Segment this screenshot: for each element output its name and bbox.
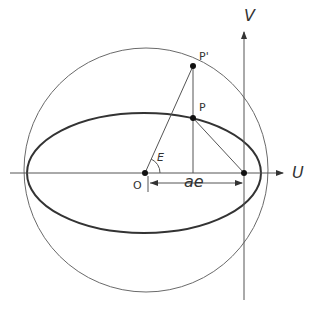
line-o-to-p-prime [145,66,193,173]
ae-distance-label: ae [184,174,204,190]
point-p [190,115,196,121]
angle-e-label: E [157,152,164,163]
point-o [142,170,148,176]
point-p-prime [190,63,196,69]
point-p-label: P [199,102,206,113]
u-axis-label: U [292,165,304,181]
origin-label: O [133,180,142,191]
point-focus [241,170,247,176]
eccentric-anomaly-diagram: V U P' P O E ae [0,0,313,318]
point-p-prime-label: P' [199,51,209,62]
v-axis-label: V [244,8,255,24]
